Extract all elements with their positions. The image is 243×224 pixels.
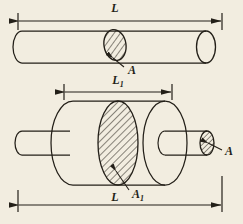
- technical-diagram: L A L1: [0, 0, 243, 224]
- cross-section-label-A1-base: A: [131, 187, 140, 201]
- cross-section-label-A-small: A: [224, 144, 233, 158]
- dimension-label-L1-base: L: [111, 73, 119, 87]
- diagram-canvas: L A L1: [0, 0, 243, 224]
- dimension-label-L1-subscript: 1: [120, 80, 124, 89]
- cross-section-A-small-face: [200, 131, 214, 155]
- dimension-label-L: L: [110, 1, 118, 15]
- dimension-label-L-total: L: [110, 190, 118, 204]
- cross-section-label-A1-subscript: 1: [140, 194, 144, 203]
- cross-section-A1-hatched-face: [98, 101, 138, 185]
- cross-section-label-A: A: [127, 63, 136, 77]
